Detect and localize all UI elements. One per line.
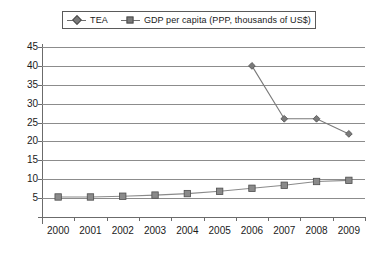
- chart-container: TEA GDP per capita (PPP, thousands of US…: [0, 0, 376, 257]
- data-point-diamond: [281, 115, 288, 122]
- data-point-square: [55, 194, 61, 200]
- series-line: [58, 180, 349, 197]
- data-point-square: [346, 177, 352, 183]
- data-point-diamond: [345, 130, 352, 137]
- data-point-square: [87, 194, 93, 200]
- data-point-square: [249, 185, 255, 191]
- data-series-layer: [0, 0, 376, 257]
- data-point-square: [184, 190, 190, 196]
- data-point-diamond: [249, 62, 256, 69]
- data-point-square: [313, 178, 319, 184]
- data-point-square: [152, 192, 158, 198]
- series-line: [252, 66, 349, 134]
- data-point-square: [281, 182, 287, 188]
- data-point-square: [120, 193, 126, 199]
- data-point-diamond: [313, 115, 320, 122]
- data-point-square: [216, 188, 222, 194]
- series-gdp: [55, 177, 352, 200]
- series-tea: [249, 62, 353, 137]
